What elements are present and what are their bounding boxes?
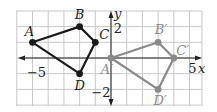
vertex-label-C: C <box>99 27 109 42</box>
vertex-A-prime-point <box>108 55 115 62</box>
x-tick-label-neg5: −5 <box>27 65 46 80</box>
vertex-label-D-prime: D′ <box>152 93 166 108</box>
y-tick-label-neg2: −2 <box>91 85 110 100</box>
vertex-label-B: B <box>74 7 85 22</box>
x-axis-left-arrow-icon <box>18 56 25 61</box>
y-axis-label: y <box>113 6 122 21</box>
vertex-B-point <box>76 23 83 30</box>
vertex-label-A-prime: A′ <box>100 62 113 77</box>
vertex-label-B-prime: B′ <box>154 22 168 37</box>
coordinate-plane: xy−552−2ABCDA′B′C′D′ <box>0 0 217 112</box>
vertex-label-A: A <box>24 24 34 39</box>
vertex-label-D: D <box>73 78 85 93</box>
x-axis-label: x <box>198 61 206 76</box>
vertex-A-point <box>29 39 36 46</box>
y-tick-label-2: 2 <box>114 21 122 36</box>
vertex-D-prime-point <box>155 86 162 93</box>
x-axis-right-arrow-icon <box>195 56 202 61</box>
vertex-label-C-prime: C′ <box>176 43 189 58</box>
vertex-D-point <box>76 70 83 77</box>
x-tick-label-5: 5 <box>188 61 196 76</box>
vertex-C-point <box>92 39 99 46</box>
vertex-B-prime-point <box>155 39 162 46</box>
y-axis-up-arrow-icon <box>109 11 114 18</box>
